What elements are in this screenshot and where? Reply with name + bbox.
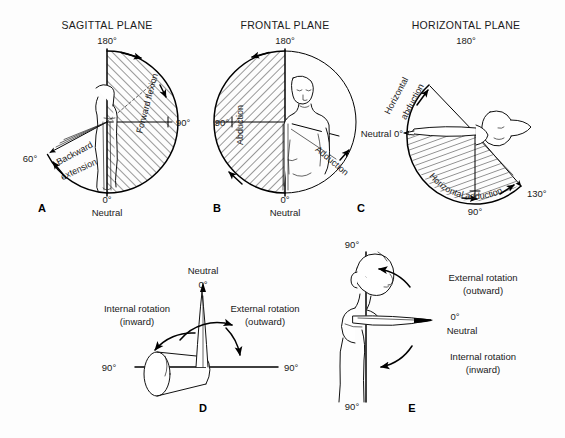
panel-a-label-90: 90° xyxy=(176,117,191,128)
panel-d-forearm-outline xyxy=(196,292,208,367)
panel-b-head-outline xyxy=(292,76,314,104)
panel-e-label-internal-1: Internal rotation xyxy=(450,351,516,362)
panel-e-hand xyxy=(414,318,433,323)
panel-a-torso-front xyxy=(95,97,98,191)
panel-e-label-internal-2: (inward) xyxy=(466,364,500,375)
panel-d-label-external-2: (outward) xyxy=(245,316,285,327)
panel-a-apex-label: 180° xyxy=(97,35,117,46)
panel-d-letter: D xyxy=(199,402,207,414)
panel-e-front-line xyxy=(362,330,365,402)
panel-c-horizontal: HORIZONTAL PLANE 180° Neutral 0° 90° 130… xyxy=(357,19,547,217)
panel-b-hip-line xyxy=(293,173,311,176)
panel-c-label-neutral: Neutral 0° xyxy=(361,128,404,139)
panel-e-rotation-standing: 90° 90° 0° Neutral External rotation (ou… xyxy=(339,239,518,414)
panel-b-label-abduction: Abduction xyxy=(235,105,245,145)
panel-a-label-60: 60° xyxy=(23,153,38,164)
panel-d-label-internal-2: (inward) xyxy=(120,316,154,327)
panel-c-apex-label: 180° xyxy=(456,35,476,46)
panel-a-title: SAGITTAL PLANE xyxy=(61,19,152,31)
panel-d-label-90-left: 90° xyxy=(102,362,117,373)
panel-d-label-external-1: External rotation xyxy=(230,303,299,314)
figure-root: SAGITTAL PLANE 180° 90° 60° 0° Neu xyxy=(0,0,565,438)
panel-e-back-line xyxy=(339,338,343,402)
panel-d-external-rotation-arrow-2 xyxy=(226,328,240,355)
panel-e-label-external-1: External rotation xyxy=(448,272,517,283)
panel-b-title: FRONTAL PLANE xyxy=(240,19,329,31)
panel-e-letter: E xyxy=(408,402,415,414)
panel-a-arm-neutral xyxy=(103,122,104,190)
panel-d-rotation-supine: Neutral 0° 90° 90° Internal rotation (in… xyxy=(102,265,300,414)
panel-b-mouth xyxy=(300,106,309,108)
panel-e-label-90-bottom: 90° xyxy=(345,401,360,412)
panel-b-letter: B xyxy=(213,202,221,214)
panel-b-neck-left xyxy=(293,104,299,114)
panel-a-letter: A xyxy=(38,202,46,214)
panel-b-adduction-ray xyxy=(285,122,339,136)
panel-c-nose-top xyxy=(511,120,531,136)
panel-d-label-internal-1: Internal rotation xyxy=(104,303,170,314)
panel-e-ear xyxy=(351,272,357,288)
panel-b-apex-label: 180° xyxy=(275,35,295,46)
panel-a-extension-ray-d xyxy=(64,122,107,140)
panel-e-internal-rotation-arrow xyxy=(381,346,412,367)
panel-a-sagittal: SAGITTAL PLANE 180° 90° 60° 0° Neu xyxy=(23,19,191,218)
panel-b-frontal: FRONTAL PLANE 180° 90° xyxy=(213,19,356,218)
panel-c-abduction-ray xyxy=(430,86,475,133)
panel-e-label-90-top: 90° xyxy=(345,239,360,250)
panel-c-arm-neutral-top xyxy=(413,127,477,137)
panel-e-label-0: 0° xyxy=(450,311,459,322)
panel-b-label-90: 90° xyxy=(215,117,230,128)
panel-d-label-90-right: 90° xyxy=(284,362,299,373)
panel-a-label-neutral: Neutral xyxy=(92,207,123,218)
panel-c-letter: C xyxy=(357,202,365,214)
panel-b-label-0: 0° xyxy=(280,194,289,205)
panel-e-label-neutral: Neutral xyxy=(447,325,478,336)
panel-b-neck-right xyxy=(311,104,318,114)
panel-e-label-external-2: (outward) xyxy=(463,285,503,296)
panel-b-waist-line xyxy=(288,159,297,161)
panel-b-label-neutral: Neutral xyxy=(270,207,301,218)
panel-e-neck-front xyxy=(367,296,371,309)
panel-a-head-outline xyxy=(96,85,114,106)
panel-c-label-130: 130° xyxy=(527,188,547,199)
panel-c-label-90: 90° xyxy=(468,206,483,217)
panel-c-head-top-outline xyxy=(482,111,513,146)
panel-e-neck-back xyxy=(355,294,360,308)
panel-d-internal-rotation-arrow xyxy=(155,333,195,350)
rom-figure-svg: SAGITTAL PLANE 180° 90° 60° 0° Neu xyxy=(0,0,565,438)
panel-d-label-neutral: Neutral xyxy=(188,265,219,276)
panel-c-hand-top xyxy=(407,131,414,135)
panel-c-title: HORIZONTAL PLANE xyxy=(412,19,521,31)
panel-a-label-0: 0° xyxy=(102,194,111,205)
